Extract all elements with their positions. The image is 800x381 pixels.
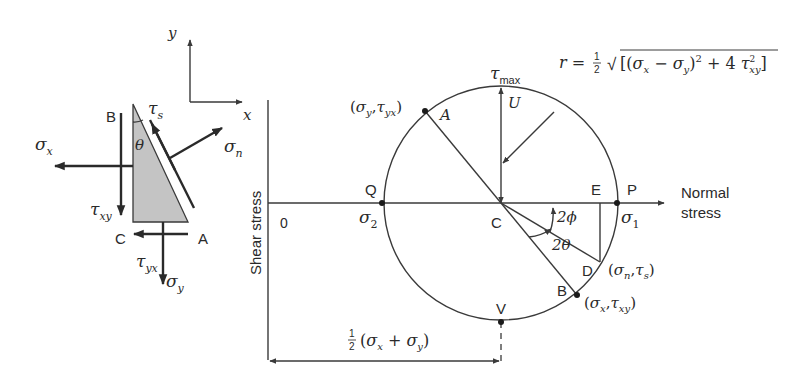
point-v	[498, 319, 504, 325]
corner-c-label: C	[115, 230, 126, 247]
svg-text:2: 2	[594, 64, 600, 75]
svg-text:(σx + σy): (σx + σy)	[360, 331, 429, 352]
point-p	[614, 200, 620, 206]
point-v-label: V	[496, 300, 506, 317]
radius-pointer	[503, 112, 554, 163]
tau-xy-label: τxy	[90, 199, 113, 223]
point-d-label: D	[582, 262, 593, 279]
stress-element: y x θ B C A σx τxy τyx σy τs σn	[35, 24, 252, 295]
theta-label: θ	[135, 136, 144, 154]
sigma-2-label: σ2	[359, 207, 378, 231]
angle-2phi-label: 2ϕ	[556, 208, 577, 226]
mohr-circle-plot: Shear stress Normal stress 0 2ϕ 2θ	[247, 50, 778, 364]
angle-2phi-arc	[550, 208, 553, 232]
shear-stress-axis-label: Shear stress	[247, 191, 264, 275]
svg-text:2: 2	[349, 341, 355, 352]
tau-yx-label: τyx	[136, 251, 159, 275]
radius-formula: r = 1 2 √ [(σx − σy)2 + 4 τ2xy]	[559, 50, 778, 75]
point-a-label: A	[438, 106, 451, 124]
normal-stress-label-line2: stress	[681, 204, 721, 221]
coordinate-axes-icon: y x	[167, 24, 252, 124]
corner-b-label: B	[106, 108, 116, 125]
center-c-label: C	[491, 214, 502, 231]
sigma-n-label: σn	[224, 136, 243, 160]
corner-a-label: A	[198, 230, 208, 247]
sigma-1-label: σ1	[621, 207, 640, 231]
sigma-x-label: σx	[35, 134, 54, 158]
point-u-label: U	[508, 94, 522, 112]
point-d-coords: (σn,τs)	[608, 261, 655, 281]
point-a	[422, 108, 428, 114]
center-dimension-formula: 1 2 (σx + σy)	[348, 328, 429, 352]
mohr-circle-diagram: y x θ B C A σx τxy τyx σy τs σn	[0, 0, 800, 381]
point-b-label: B	[557, 282, 567, 299]
point-e-label: E	[591, 181, 601, 198]
normal-stress-label-line1: Normal	[681, 184, 729, 201]
origin-label: 0	[280, 215, 288, 231]
point-p-label: P	[627, 181, 637, 198]
point-a-coords: (σy,τyx)	[350, 98, 402, 118]
tau-s-label: τs	[148, 98, 163, 122]
sigma-n-arrow	[170, 128, 222, 158]
point-q-label: Q	[365, 181, 377, 198]
radius-formula-lhs: r =	[559, 53, 585, 72]
point-b-coords: (σx,τxy)	[584, 294, 636, 314]
point-b	[574, 292, 580, 298]
angle-2theta-label: 2θ	[551, 236, 571, 254]
point-q	[379, 200, 385, 206]
y-axis-label: y	[167, 24, 177, 42]
x-axis-label: x	[243, 106, 252, 124]
sigma-y-label: σy	[166, 271, 185, 295]
svg-text:1: 1	[594, 51, 600, 62]
tau-max-label: τmax	[490, 63, 521, 86]
radius-formula-body: [(σx − σy)2 + 4 τ2xy]	[620, 53, 767, 75]
svg-text:1: 1	[349, 328, 355, 339]
svg-text:√: √	[607, 55, 617, 74]
radius-cd	[501, 203, 600, 262]
